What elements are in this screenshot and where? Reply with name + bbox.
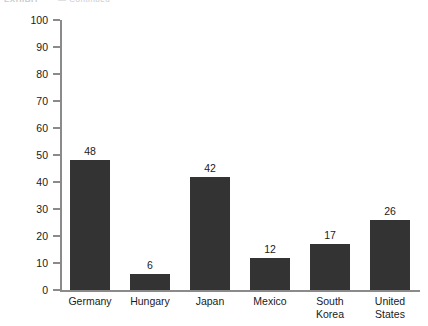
x-axis-category-label: SouthKorea bbox=[300, 295, 360, 320]
bar-value-label: 42 bbox=[180, 163, 240, 174]
bar[interactable] bbox=[70, 160, 110, 290]
y-axis-tick bbox=[53, 46, 60, 48]
x-axis-category-label: Germany bbox=[60, 295, 120, 308]
y-axis-tick bbox=[53, 235, 60, 237]
bar-group: 6 bbox=[120, 20, 180, 290]
bar-group: 48 bbox=[60, 20, 120, 290]
x-axis-category-label: Hungary bbox=[120, 295, 180, 308]
y-axis-tick-label: 0 bbox=[8, 285, 48, 296]
x-axis-category-label-line: Germany bbox=[60, 295, 120, 308]
y-axis-tick-label: 50 bbox=[8, 150, 48, 161]
y-axis-tick-label: 20 bbox=[8, 231, 48, 242]
x-axis-category-label-line: South bbox=[300, 295, 360, 308]
x-axis-line bbox=[60, 290, 420, 292]
bar[interactable] bbox=[130, 274, 170, 290]
y-axis-tick bbox=[53, 19, 60, 21]
x-axis-category-label-line: United bbox=[360, 295, 420, 308]
bar-value-label: 17 bbox=[300, 230, 360, 241]
x-axis-category-label-line: Japan bbox=[180, 295, 240, 308]
bar[interactable] bbox=[250, 258, 290, 290]
x-axis-category-label: Japan bbox=[180, 295, 240, 308]
y-axis-tick bbox=[53, 154, 60, 156]
y-axis-tick bbox=[53, 262, 60, 264]
bar-group: 12 bbox=[240, 20, 300, 290]
bar-value-label: 6 bbox=[120, 260, 180, 271]
y-axis-tick-label: 100 bbox=[8, 15, 48, 26]
x-axis-category-label-line: Mexico bbox=[240, 295, 300, 308]
x-axis-category-label-line: Hungary bbox=[120, 295, 180, 308]
y-axis-tick-label: 30 bbox=[8, 204, 48, 215]
y-axis-tick bbox=[53, 73, 60, 75]
y-axis-tick bbox=[53, 100, 60, 102]
y-axis-tick bbox=[53, 181, 60, 183]
y-axis-tick-label: 40 bbox=[8, 177, 48, 188]
bar-value-label: 48 bbox=[60, 146, 120, 157]
bar-group: 42 bbox=[180, 20, 240, 290]
y-axis-tick-label: 70 bbox=[8, 96, 48, 107]
x-axis-category-label-line: Korea bbox=[300, 308, 360, 321]
y-axis-tick-label: 80 bbox=[8, 69, 48, 80]
bar[interactable] bbox=[190, 177, 230, 290]
y-axis-tick-label: 60 bbox=[8, 123, 48, 134]
y-axis-tick bbox=[53, 127, 60, 129]
bar-value-label: 12 bbox=[240, 244, 300, 255]
bar[interactable] bbox=[370, 220, 410, 290]
y-axis-tick bbox=[53, 289, 60, 291]
bar-chart: 0102030405060708090100 48642121726 Germa… bbox=[0, 0, 428, 326]
bar-value-label: 26 bbox=[360, 206, 420, 217]
x-axis-category-label: Mexico bbox=[240, 295, 300, 308]
y-axis-tick bbox=[53, 208, 60, 210]
y-axis-tick-label: 90 bbox=[8, 42, 48, 53]
y-axis-tick-label: 10 bbox=[8, 258, 48, 269]
x-axis-category-labels: GermanyHungaryJapanMexicoSouthKoreaUnite… bbox=[60, 295, 420, 326]
bar[interactable] bbox=[310, 244, 350, 290]
bar-group: 17 bbox=[300, 20, 360, 290]
plot-area: 48642121726 bbox=[60, 20, 420, 290]
x-axis-category-label: UnitedStates bbox=[360, 295, 420, 320]
bar-group: 26 bbox=[360, 20, 420, 290]
x-axis-category-label-line: States bbox=[360, 308, 420, 321]
